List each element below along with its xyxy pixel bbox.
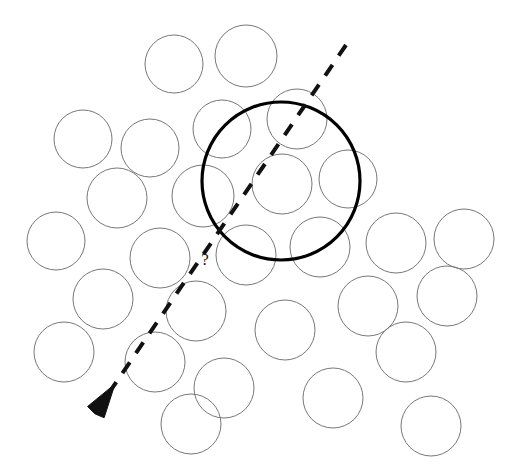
figure-canvas: ? <box>0 0 526 473</box>
diagram-background <box>0 0 526 473</box>
question-mark-label: ? <box>201 250 209 269</box>
circle-packing-diagram: ? <box>0 0 526 473</box>
